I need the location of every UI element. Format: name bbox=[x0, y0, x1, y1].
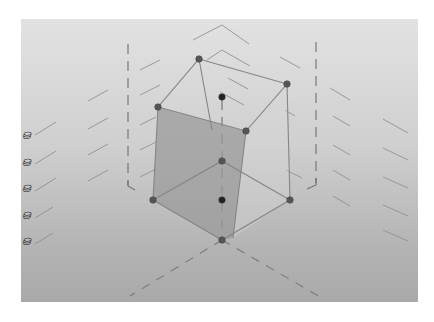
point-P2 bbox=[219, 197, 226, 204]
caption bbox=[22, 305, 418, 317]
point-A bbox=[196, 56, 203, 63]
point-B bbox=[284, 81, 291, 88]
point-H bbox=[219, 237, 226, 244]
object-icon-1[interactable]: ⛁ bbox=[22, 130, 35, 142]
object-icon-5[interactable]: ⛁ bbox=[22, 236, 35, 248]
point-C bbox=[243, 128, 250, 135]
point-P1 bbox=[219, 94, 226, 101]
object-icon-4[interactable]: ⛁ bbox=[22, 210, 35, 222]
dashed-floor-lines bbox=[130, 240, 322, 298]
left-toolbar: ⛁ ⛁ ⛁ ⛁ ⛁ bbox=[23, 130, 37, 263]
3d-scene[interactable] bbox=[0, 0, 434, 322]
object-icon-2[interactable]: ⛁ bbox=[22, 157, 35, 169]
point-F bbox=[219, 158, 226, 165]
point-E bbox=[150, 197, 157, 204]
point-D bbox=[155, 104, 162, 111]
object-icon-3[interactable]: ⛁ bbox=[22, 183, 35, 195]
point-G bbox=[287, 197, 294, 204]
